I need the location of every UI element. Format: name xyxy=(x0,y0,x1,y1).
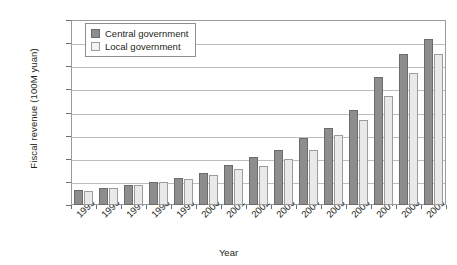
bar-central-1995 xyxy=(74,190,83,205)
x-tick-mark xyxy=(121,205,122,209)
bar-group xyxy=(196,20,221,205)
bar-local-1998 xyxy=(159,182,168,205)
bar-group xyxy=(371,20,396,205)
x-tick-mark xyxy=(321,205,322,209)
bar-central-1999 xyxy=(174,178,183,205)
x-tick-mark xyxy=(346,205,347,209)
legend-label-local: Local government xyxy=(105,41,181,52)
bar-group xyxy=(421,20,446,205)
x-tick-mark xyxy=(196,205,197,209)
bar-local-2009 xyxy=(434,54,443,205)
bar-group xyxy=(246,20,271,205)
bar-local-1995 xyxy=(84,191,93,205)
x-tick-mark xyxy=(171,205,172,209)
x-tick-mark xyxy=(446,205,447,209)
bar-central-2005 xyxy=(324,128,333,205)
bar-central-2004 xyxy=(299,138,308,205)
bar-group xyxy=(396,20,421,205)
bar-central-2003 xyxy=(274,150,283,205)
bar-local-1996 xyxy=(109,188,118,205)
bar-local-2008 xyxy=(409,73,418,206)
x-tick-mark xyxy=(371,205,372,209)
x-tick-mark xyxy=(71,205,72,209)
bar-central-1998 xyxy=(149,182,158,205)
bar-local-2005 xyxy=(334,135,343,205)
legend-item-local: Local government xyxy=(91,40,188,53)
bar-local-2001 xyxy=(234,169,243,205)
bar-local-2000 xyxy=(209,175,218,205)
legend-item-central: Central government xyxy=(91,27,188,40)
x-tick-mark xyxy=(271,205,272,209)
bar-local-2006 xyxy=(359,120,368,205)
bar-local-2002 xyxy=(259,166,268,205)
bar-central-2002 xyxy=(249,157,258,205)
legend-swatch-local-icon xyxy=(91,42,100,51)
bar-central-2001 xyxy=(224,165,233,205)
bar-central-2006 xyxy=(349,110,358,205)
x-tick-mark xyxy=(296,205,297,209)
x-tick-mark xyxy=(396,205,397,209)
bar-group xyxy=(321,20,346,205)
bar-local-2004 xyxy=(309,150,318,205)
legend-swatch-central-icon xyxy=(91,29,100,38)
bar-local-2007 xyxy=(384,96,393,205)
legend: Central government Local government xyxy=(85,23,196,57)
x-tick-mark xyxy=(146,205,147,209)
y-axis-title: Fiscal revenue (100M yuan) xyxy=(28,14,39,204)
bar-local-1999 xyxy=(184,179,193,205)
bar-central-2008 xyxy=(399,54,408,205)
x-axis-title: Year xyxy=(0,247,457,258)
bar-central-2007 xyxy=(374,77,383,205)
bar-chart: Fiscal revenue (100M yuan) 0500010,00015… xyxy=(0,0,457,265)
x-tick-mark xyxy=(421,205,422,209)
bar-group xyxy=(346,20,371,205)
x-tick-mark xyxy=(221,205,222,209)
bar-group xyxy=(296,20,321,205)
x-tick-mark xyxy=(246,205,247,209)
bar-group xyxy=(271,20,296,205)
bar-central-2009 xyxy=(424,39,433,205)
bar-group xyxy=(221,20,246,205)
legend-label-central: Central government xyxy=(105,28,188,39)
bar-local-1997 xyxy=(134,185,143,205)
bar-central-1996 xyxy=(99,188,108,205)
x-tick-mark xyxy=(96,205,97,209)
bar-local-2003 xyxy=(284,159,293,205)
bar-central-2000 xyxy=(199,173,208,205)
bar-central-1997 xyxy=(124,185,133,205)
